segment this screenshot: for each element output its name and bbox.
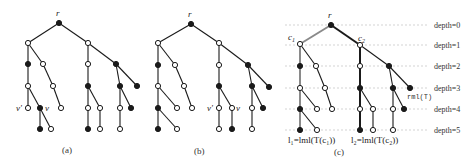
depth-label: depth=0 [434, 21, 460, 30]
node [85, 61, 90, 66]
node [85, 40, 90, 45]
panel-b-nodes [155, 21, 271, 131]
node [189, 105, 194, 110]
node [37, 126, 42, 131]
depth-label: depth=4 [434, 105, 460, 114]
c2-label: c2 [358, 33, 365, 44]
node [329, 106, 334, 111]
node [155, 40, 160, 45]
node [386, 63, 391, 68]
v-label: v [45, 103, 49, 113]
node [85, 105, 90, 110]
depth-label: depth=5 [434, 126, 460, 135]
node [40, 61, 45, 66]
depth-label: depth=3 [434, 84, 460, 93]
node [25, 83, 30, 88]
node [25, 61, 30, 66]
v-label: v [236, 103, 240, 113]
node-c1 [297, 41, 302, 46]
node [25, 40, 30, 45]
node [390, 127, 395, 132]
node [117, 83, 122, 88]
node [48, 126, 53, 131]
panel-a-nodes [25, 20, 139, 131]
root-label: r [328, 10, 332, 20]
node [128, 105, 133, 110]
node [181, 83, 186, 88]
node [216, 126, 221, 131]
node-v [37, 105, 42, 110]
depth-label: depth=2 [434, 62, 460, 71]
node [117, 126, 122, 131]
node [97, 105, 102, 110]
node-v-prime [25, 105, 30, 110]
caption-a: (a) [62, 145, 72, 155]
node [117, 105, 122, 110]
panel-b [158, 24, 269, 129]
node [401, 106, 406, 111]
caption-c: (c) [334, 147, 344, 157]
node [216, 40, 221, 45]
node [249, 126, 254, 131]
node [297, 106, 302, 111]
caption-b: (b) [194, 146, 205, 156]
panel-c [300, 25, 410, 130]
node [174, 126, 179, 131]
c2-label-sub: 2 [362, 38, 365, 44]
c1-label-sub: 1 [292, 37, 295, 43]
node [370, 106, 375, 111]
node [97, 126, 102, 131]
node [50, 83, 55, 88]
node [174, 105, 179, 110]
c1-label: c1 [288, 32, 295, 43]
node [322, 85, 327, 90]
node [313, 63, 318, 68]
root-node [188, 21, 193, 26]
node [297, 85, 302, 90]
node [245, 62, 250, 67]
node [155, 62, 160, 67]
node [357, 63, 362, 68]
root-node [328, 22, 333, 27]
depth-label: depth=1 [434, 41, 460, 50]
node [172, 62, 177, 67]
tree-figure: r v' v (a) [0, 0, 476, 164]
node [216, 62, 221, 67]
node [297, 63, 302, 68]
node [249, 105, 254, 110]
root-label: r [188, 9, 192, 19]
node [370, 127, 375, 132]
node [85, 83, 90, 88]
node [134, 83, 139, 88]
node [357, 106, 362, 111]
panel-c-nodes [297, 22, 412, 132]
node [314, 106, 319, 111]
node [216, 83, 221, 88]
node [155, 105, 160, 110]
node-l1 [297, 127, 302, 132]
l2-label: l₂=lml(T(c₂)) [351, 135, 398, 145]
root-node [56, 20, 61, 25]
l1-label: l₁=lml(T(c₁)) [288, 135, 335, 145]
root-label: r [56, 8, 60, 18]
v-prime-label: v' [16, 103, 23, 113]
node-rml [407, 85, 412, 90]
v-prime-label: v' [207, 103, 214, 113]
node [390, 85, 395, 90]
node-v [229, 105, 234, 110]
node [113, 61, 118, 66]
node [260, 105, 265, 110]
node [390, 106, 395, 111]
node [85, 126, 90, 131]
rml-label: rml(T) [407, 93, 432, 101]
panel-a [28, 23, 137, 129]
node [58, 105, 63, 110]
depth-labels: depth=0 depth=1 depth=2 depth=3 depth=4 … [434, 21, 460, 135]
node [229, 126, 234, 131]
node [155, 126, 160, 131]
node [266, 84, 271, 89]
node-v-prime [216, 105, 221, 110]
node [314, 127, 319, 132]
node [155, 83, 160, 88]
node [357, 85, 362, 90]
